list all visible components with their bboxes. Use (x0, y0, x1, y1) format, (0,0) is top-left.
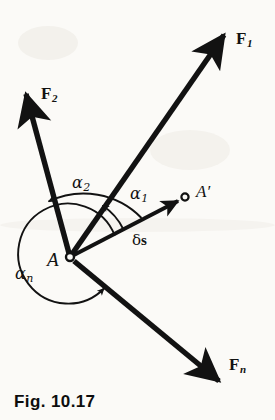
alpha2-symbol: α (72, 173, 83, 192)
displacement-label-delta-s: δs (132, 233, 147, 248)
force-label-fn-text: F (229, 355, 239, 374)
force-label-fn-sub: n (240, 363, 246, 375)
force-label-f2-sub: 2 (52, 92, 58, 104)
angle-label-alphan: αn (15, 266, 33, 284)
angle-arc-alpha2 (49, 194, 142, 218)
point-label-a-prime: A′ (196, 183, 210, 200)
angle-label-alpha2: α2 (72, 175, 90, 193)
delta-symbol: δ (132, 231, 141, 249)
alpha1-symbol: α (130, 184, 141, 203)
delta-s-variable: s (141, 232, 147, 248)
force-label-f2: F2 (41, 85, 57, 104)
force-label-fn: Fn (229, 356, 246, 375)
point-label-a: A (47, 250, 59, 269)
point-a-prime-marker (181, 193, 188, 200)
alphan-subscript: n (26, 272, 33, 285)
force-label-f2-text: F (41, 84, 51, 103)
alpha1-subscript: 1 (141, 192, 148, 205)
point-a-marker (66, 253, 74, 261)
force-vector-f2 (26, 94, 70, 257)
force-label-f1: F1 (236, 30, 252, 49)
force-label-f1-text: F (236, 29, 246, 48)
force-vector-fn (74, 261, 219, 381)
figure-container: F1 F2 Fn δs α1 α2 αn A A′ Fig. 10.17 (0, 0, 275, 420)
figure-caption: Fig. 10.17 (14, 392, 95, 412)
angle-label-alpha1: α1 (130, 186, 148, 204)
alpha2-subscript: 2 (83, 181, 90, 194)
force-label-f1-sub: 1 (247, 37, 253, 49)
alphan-symbol: α (15, 264, 26, 283)
force-vector-f1 (70, 35, 224, 257)
